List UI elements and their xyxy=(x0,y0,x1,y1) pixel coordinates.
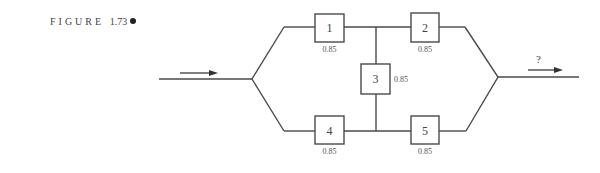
component-label: 5 xyxy=(422,124,428,138)
component-1: 1 0.85 xyxy=(315,14,344,54)
component-3: 3 0.85 xyxy=(361,64,408,94)
component-reliability: 0.85 xyxy=(418,45,432,54)
component-label: 4 xyxy=(327,124,333,138)
output-arrow-icon xyxy=(528,67,563,73)
component-5: 5 0.85 xyxy=(411,116,439,156)
left-fork-wire xyxy=(252,27,284,131)
bridge-network-diagram: ? 1 0.85 2 0.85 3 0.85 4 0.85 5 0.85 xyxy=(0,0,600,173)
component-label: 2 xyxy=(422,21,428,35)
component-label: 1 xyxy=(327,21,333,35)
output-question-label: ? xyxy=(536,53,541,65)
component-reliability: 0.85 xyxy=(323,147,337,156)
component-reliability: 0.85 xyxy=(394,75,408,84)
input-arrow-icon xyxy=(180,70,218,76)
right-fork-wire xyxy=(465,27,498,131)
component-2: 2 0.85 xyxy=(411,13,439,54)
component-reliability: 0.85 xyxy=(323,45,337,54)
component-label: 3 xyxy=(373,72,379,86)
component-4: 4 0.85 xyxy=(315,116,344,156)
component-reliability: 0.85 xyxy=(418,147,432,156)
